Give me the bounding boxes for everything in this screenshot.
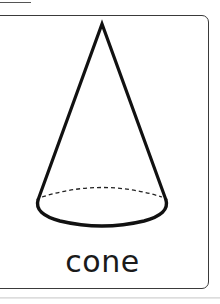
next-card-edge bbox=[0, 297, 220, 299]
cone-sides bbox=[38, 24, 166, 200]
shape-label: cone bbox=[0, 245, 205, 279]
cone-base-hidden-edge bbox=[42, 188, 162, 198]
cone-base-front-edge bbox=[37, 200, 166, 226]
